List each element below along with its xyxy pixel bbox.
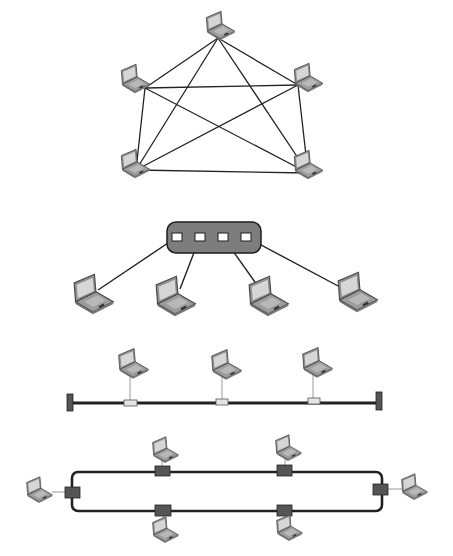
laptop-icon-bus-pc-1[interactable] (119, 349, 149, 379)
ring-topology (27, 435, 428, 543)
mesh-link (145, 38, 218, 88)
ring-connector-6 (277, 505, 292, 516)
laptop-icon-hub-pc-4[interactable] (338, 272, 377, 312)
bus-tap-connector-3 (308, 398, 320, 404)
mesh-link (136, 170, 308, 173)
mesh-link (145, 85, 298, 88)
network-topologies-figure (0, 0, 453, 556)
ring-connector-1 (65, 487, 80, 498)
laptop-icon-ring-pc-top-2[interactable] (276, 435, 302, 461)
laptop-icon-lower-right[interactable] (294, 150, 322, 179)
bus-terminator-2 (376, 392, 382, 410)
mesh-link (218, 38, 308, 173)
mesh-link (136, 85, 298, 170)
laptop-icon-bus-pc-3[interactable] (303, 348, 333, 378)
mesh-topology (121, 11, 322, 179)
ring-connector-2 (155, 466, 170, 476)
mesh-link (145, 88, 308, 173)
ring-connector-5 (155, 505, 171, 516)
star-topology (74, 222, 377, 316)
bus-tap-connector-1 (124, 400, 137, 406)
laptop-icon-ring-pc-left[interactable] (27, 477, 53, 503)
laptop-icon-hub-pc-2[interactable] (156, 276, 195, 316)
laptop-icon-hub-pc-1[interactable] (74, 274, 113, 314)
ring-connector-3 (277, 465, 292, 476)
bus-terminator-1 (67, 394, 73, 411)
hub-port-3[interactable] (218, 233, 228, 241)
mesh-link (218, 38, 298, 85)
laptop-icon-ring-pc-bottom-2[interactable] (277, 515, 303, 541)
hub-port-1[interactable] (172, 233, 182, 241)
hub-port-4[interactable] (241, 233, 251, 241)
ring-cable-loop (72, 472, 382, 511)
laptop-icon-bus-pc-2[interactable] (212, 350, 242, 380)
laptop-icon-ring-pc-top-1[interactable] (153, 437, 179, 463)
laptop-icon-ring-pc-bottom-1[interactable] (153, 517, 179, 543)
bus-topology (67, 348, 382, 412)
laptop-icon-hub-pc-3[interactable] (249, 276, 288, 316)
laptop-icon-top[interactable] (206, 11, 234, 40)
ring-connector-4 (373, 484, 388, 495)
topology-diagram-canvas (0, 0, 453, 556)
bus-tap-connector-2 (216, 399, 228, 405)
hub-port-2[interactable] (195, 233, 205, 241)
laptop-icon-ring-pc-right[interactable] (402, 474, 428, 500)
